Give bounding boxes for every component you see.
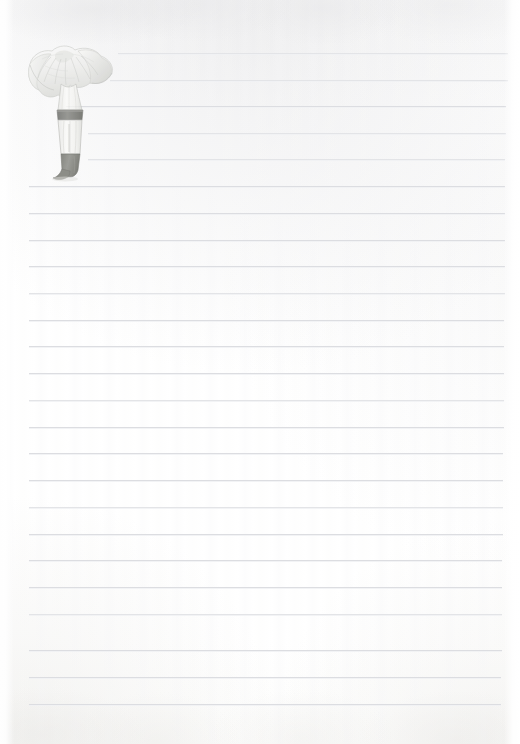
rule-line-19 — [29, 534, 503, 535]
rule-line-23 — [29, 650, 502, 651]
rule-line-6 — [29, 186, 505, 187]
rule-line-15 — [29, 427, 504, 428]
rule-line-5 — [88, 159, 505, 160]
rule-line-14 — [29, 400, 504, 401]
rule-line-2 — [110, 80, 508, 81]
rule-line-21 — [29, 587, 502, 588]
rule-line-1 — [118, 53, 508, 54]
rule-line-12 — [29, 346, 504, 347]
rule-line-10 — [29, 293, 505, 294]
rule-line-17 — [29, 480, 503, 481]
rule-line-25 — [29, 704, 501, 705]
rule-line-13 — [29, 373, 504, 374]
rule-line-18 — [29, 507, 503, 508]
rule-line-16 — [29, 453, 503, 454]
mushroom-illustration — [12, 28, 124, 183]
rule-line-3 — [66, 106, 506, 107]
rule-line-7 — [29, 213, 505, 214]
page-edge-right — [504, 0, 520, 744]
rule-line-22 — [29, 614, 502, 615]
rule-line-9 — [29, 266, 505, 267]
rule-line-20 — [29, 560, 502, 561]
rule-line-24 — [29, 677, 501, 678]
rule-line-4 — [88, 133, 506, 134]
rule-line-8 — [29, 240, 505, 241]
notepaper-page: Blank lined notebook page with mushroom … — [0, 0, 520, 744]
rule-line-11 — [29, 320, 504, 321]
